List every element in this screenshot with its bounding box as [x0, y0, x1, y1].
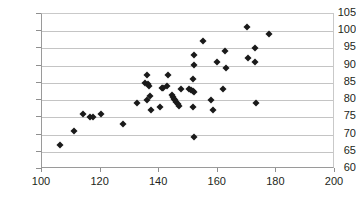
x-tick-mark: [41, 168, 42, 172]
data-point: [178, 86, 185, 93]
x-tick-label: 140: [138, 176, 178, 187]
gridline-horizontal: [42, 31, 333, 32]
data-point: [243, 24, 250, 31]
data-point: [147, 92, 154, 99]
data-point: [199, 38, 206, 45]
x-tick-mark: [100, 168, 101, 172]
gridline-horizontal: [42, 83, 333, 84]
x-tick-mark: [158, 168, 159, 172]
data-point: [244, 55, 251, 62]
gridline-horizontal: [42, 135, 333, 136]
data-point: [213, 58, 220, 65]
data-point: [120, 120, 127, 127]
data-point: [156, 103, 163, 110]
data-point: [220, 86, 227, 93]
data-point: [164, 72, 171, 79]
data-point: [190, 62, 197, 69]
x-tick-label: 120: [80, 176, 120, 187]
data-point: [147, 107, 154, 114]
data-point: [222, 65, 229, 72]
data-point: [208, 96, 215, 103]
data-point: [209, 107, 216, 114]
scatter-chart: 6065707580859095100105 10012014016018020…: [0, 0, 356, 199]
x-tick-label: 100: [21, 176, 61, 187]
data-point: [252, 45, 259, 52]
gridline-horizontal: [42, 48, 333, 49]
x-tick-mark: [334, 168, 335, 172]
data-point: [251, 58, 258, 65]
x-tick-label: 180: [255, 176, 295, 187]
data-point: [190, 76, 197, 83]
x-tick-mark: [275, 168, 276, 172]
gridline-horizontal: [42, 66, 333, 67]
x-tick-label: 160: [197, 176, 237, 187]
plot-area: [41, 13, 334, 168]
gridline-horizontal: [42, 100, 333, 101]
gridline-horizontal: [42, 117, 333, 118]
data-point: [191, 51, 198, 58]
data-point: [190, 89, 197, 96]
data-point: [190, 103, 197, 110]
x-tick-label: 200: [314, 176, 354, 187]
gridline-horizontal: [42, 152, 333, 153]
x-tick-mark: [217, 168, 218, 172]
data-point: [144, 72, 151, 79]
data-point: [56, 141, 63, 148]
